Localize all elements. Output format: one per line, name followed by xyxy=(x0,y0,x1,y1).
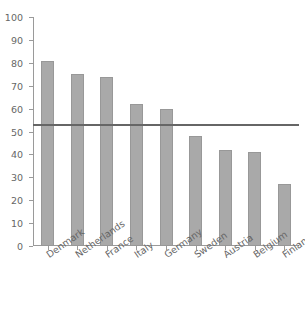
y-axis-line xyxy=(33,17,34,246)
y-axis-tick xyxy=(29,17,33,18)
y-axis-label: 10 xyxy=(11,218,23,229)
y-axis-label: 60 xyxy=(11,103,23,114)
y-axis-label: 70 xyxy=(11,80,23,91)
plot-area: 0102030405060708090100 xyxy=(33,17,299,246)
y-axis-tick xyxy=(29,132,33,133)
y-axis-tick xyxy=(29,63,33,64)
y-axis-tick xyxy=(29,177,33,178)
bar xyxy=(248,152,261,246)
y-axis-label: 100 xyxy=(5,12,23,23)
reference-line xyxy=(33,124,299,126)
bar xyxy=(71,74,84,246)
bar-chart: 0102030405060708090100 DenmarkNetherland… xyxy=(0,0,305,313)
y-axis-label: 0 xyxy=(17,241,23,252)
y-axis-tick xyxy=(29,40,33,41)
y-axis-label: 80 xyxy=(11,57,23,68)
y-axis-label: 20 xyxy=(11,195,23,206)
y-axis-label: 90 xyxy=(11,34,23,45)
y-axis-tick xyxy=(29,246,33,247)
bar xyxy=(41,61,54,246)
bar xyxy=(160,109,173,246)
y-axis-tick xyxy=(29,223,33,224)
y-axis-label: 40 xyxy=(11,149,23,160)
bar xyxy=(100,77,113,246)
y-axis-label: 50 xyxy=(11,126,23,137)
y-axis-tick xyxy=(29,86,33,87)
y-axis-tick xyxy=(29,109,33,110)
y-axis-tick xyxy=(29,200,33,201)
y-axis-label: 30 xyxy=(11,172,23,183)
y-axis-tick xyxy=(29,154,33,155)
